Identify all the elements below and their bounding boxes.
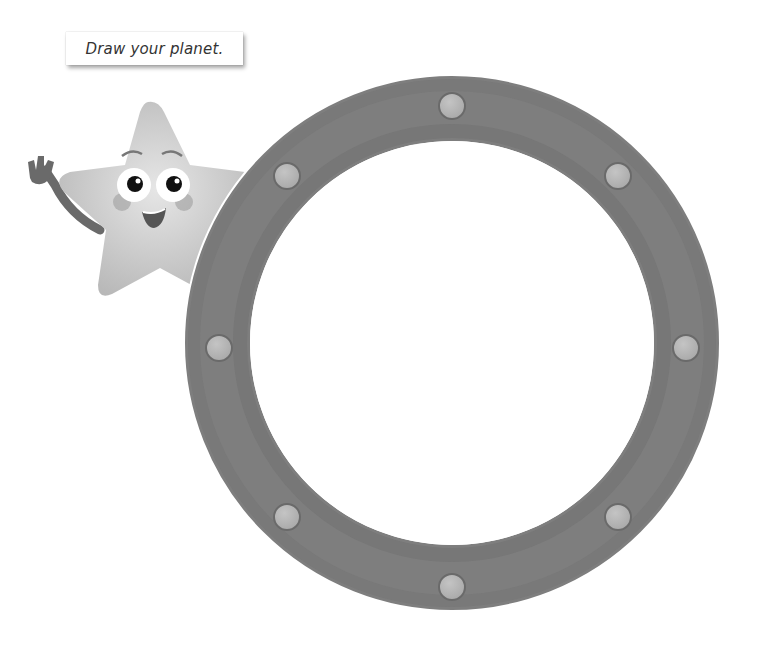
instruction-label: Draw your planet. xyxy=(66,32,243,65)
bolt-icon xyxy=(673,335,699,361)
bolt-icon xyxy=(274,163,300,189)
bolt-icon xyxy=(439,574,465,600)
instruction-text: Draw your planet. xyxy=(85,40,223,58)
bolt-icon xyxy=(274,504,300,530)
bolt-icon xyxy=(439,93,465,119)
right-eye-icon xyxy=(156,168,190,202)
scene xyxy=(0,0,764,650)
drawing-area[interactable] xyxy=(250,141,654,545)
bolt-icon xyxy=(605,163,631,189)
bolt-icon xyxy=(605,504,631,530)
bolt-icon xyxy=(206,335,232,361)
left-eye-icon xyxy=(117,168,151,202)
porthole xyxy=(183,74,721,612)
